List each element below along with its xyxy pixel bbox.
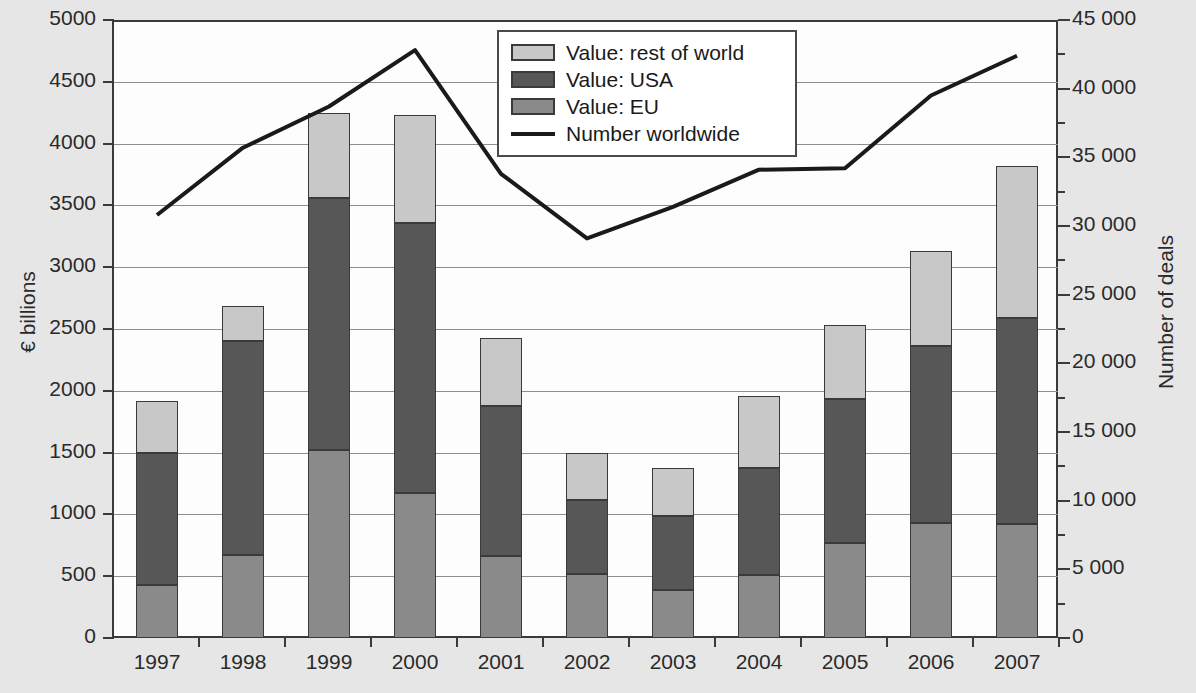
y-axis-tick-mark-right — [1058, 225, 1070, 227]
bar-segment-rest-of-world — [910, 251, 952, 346]
y-axis-title-left: € billions — [16, 192, 40, 432]
y-axis-tick-mark-left — [103, 204, 114, 206]
bar-segment-eu — [738, 575, 780, 638]
y-axis-tick-mark-left — [103, 513, 114, 515]
y-axis-tick-mark-left — [103, 390, 114, 392]
bar-segment-usa — [308, 198, 350, 450]
y-axis-tick-label-left: 3500 — [49, 191, 96, 215]
bar-segment-eu — [652, 590, 694, 638]
y-axis-tick-mark-right — [1058, 53, 1065, 55]
legend-label-usa: Value: USA — [566, 68, 673, 92]
bar-segment-usa — [910, 346, 952, 523]
legend-item-rest-of-world: Value: rest of world — [511, 39, 785, 66]
bar-segment-usa — [394, 223, 436, 493]
y-axis-tick-label-left: 4000 — [49, 130, 96, 154]
x-axis-tick-label: 1997 — [112, 650, 202, 674]
y-axis-tick-label-right: 10 000 — [1072, 487, 1136, 511]
bar-segment-eu — [910, 523, 952, 638]
y-axis-tick-mark-right — [1058, 568, 1070, 570]
y-axis-tick-mark-right — [1058, 156, 1070, 158]
x-axis-tick-label: 2005 — [800, 650, 890, 674]
legend-item-eu: Value: EU — [511, 93, 785, 120]
x-axis-tick-mark — [800, 638, 802, 647]
y-axis-tick-label-left: 500 — [61, 562, 96, 586]
legend-swatch-rest-of-world — [511, 44, 555, 61]
bar-segment-eu — [480, 556, 522, 638]
x-axis-tick-mark — [628, 638, 630, 647]
y-axis-tick-mark-left — [103, 81, 114, 83]
legend-swatch-usa — [511, 71, 555, 88]
legend: Value: rest of world Value: USA Value: E… — [497, 30, 797, 157]
bar-segment-eu — [136, 585, 178, 638]
bar-segment-eu — [394, 493, 436, 638]
y-axis-tick-label-right: 40 000 — [1072, 75, 1136, 99]
x-axis-tick-mark — [370, 638, 372, 647]
x-axis-tick-label: 2006 — [886, 650, 976, 674]
y-axis-tick-label-right: 5 000 — [1072, 555, 1125, 579]
y-axis-tick-label-left: 1000 — [49, 500, 96, 524]
x-axis-tick-mark — [456, 638, 458, 647]
bar-segment-rest-of-world — [996, 166, 1038, 318]
x-axis-tick-mark — [542, 638, 544, 647]
y-axis-tick-mark-right — [1058, 534, 1065, 536]
legend-item-usa: Value: USA — [511, 66, 785, 93]
y-axis-tick-mark-left — [103, 575, 114, 577]
bar-segment-eu — [824, 543, 866, 638]
y-axis-tick-mark-left — [103, 266, 114, 268]
bar-segment-usa — [738, 468, 780, 575]
bar-segment-rest-of-world — [824, 325, 866, 400]
y-axis-tick-label-right: 0 — [1072, 624, 1084, 648]
y-axis-tick-label-left: 4500 — [49, 68, 96, 92]
y-axis-tick-mark-left — [103, 637, 114, 639]
x-axis-tick-label: 2003 — [628, 650, 718, 674]
legend-line-marker — [511, 125, 555, 142]
y-axis-tick-mark-left — [103, 19, 114, 21]
bar-segment-usa — [222, 341, 264, 554]
y-axis-tick-mark-right — [1058, 294, 1070, 296]
x-axis-tick-mark — [198, 638, 200, 647]
x-axis-tick-mark — [972, 638, 974, 647]
y-axis-tick-mark-right — [1058, 88, 1070, 90]
x-axis-tick-label: 2000 — [370, 650, 460, 674]
y-axis-tick-label-left: 1500 — [49, 439, 96, 463]
chart-root: 0500100015002000250030003500400045005000… — [0, 0, 1196, 693]
x-axis-tick-mark — [886, 638, 888, 647]
bar-segment-rest-of-world — [652, 468, 694, 516]
gridline — [112, 205, 1058, 206]
bar-segment-eu — [566, 574, 608, 638]
x-axis-tick-mark — [284, 638, 286, 647]
x-axis-tick-label: 1998 — [198, 650, 288, 674]
bar-segment-eu — [308, 450, 350, 638]
y-axis-tick-mark-right — [1058, 328, 1065, 330]
y-axis-tick-mark-right — [1058, 122, 1065, 124]
bar-segment-usa — [480, 406, 522, 556]
y-axis-tick-label-left: 0 — [84, 624, 96, 648]
y-axis-tick-mark-left — [103, 328, 114, 330]
y-axis-tick-mark-right — [1058, 603, 1065, 605]
y-axis-tick-label-left: 2000 — [49, 377, 96, 401]
bar-segment-usa — [996, 318, 1038, 524]
x-axis-tick-label: 2002 — [542, 650, 632, 674]
bar-segment-usa — [136, 453, 178, 585]
bar-segment-rest-of-world — [394, 115, 436, 223]
y-axis-tick-label-right: 30 000 — [1072, 212, 1136, 236]
y-axis-tick-label-left: 2500 — [49, 315, 96, 339]
x-axis-tick-mark — [714, 638, 716, 647]
bar-segment-rest-of-world — [480, 338, 522, 405]
y-axis-tick-label-right: 15 000 — [1072, 418, 1136, 442]
y-axis-tick-label-right: 35 000 — [1072, 143, 1136, 167]
bar-segment-rest-of-world — [566, 453, 608, 500]
y-axis-tick-mark-right — [1058, 500, 1070, 502]
y-axis-tick-mark-right — [1058, 362, 1070, 364]
y-axis-tick-mark-right — [1058, 397, 1065, 399]
bar-segment-eu — [996, 524, 1038, 638]
bar-segment-rest-of-world — [738, 396, 780, 468]
y-axis-tick-mark-right — [1058, 191, 1065, 193]
y-axis-tick-label-right: 25 000 — [1072, 281, 1136, 305]
bar-segment-rest-of-world — [222, 306, 264, 342]
x-axis-tick-label: 2007 — [972, 650, 1062, 674]
y-axis-tick-mark-right — [1058, 465, 1065, 467]
x-axis-tick-label: 2001 — [456, 650, 546, 674]
x-axis-tick-label: 2004 — [714, 650, 804, 674]
y-axis-tick-label-right: 45 000 — [1072, 6, 1136, 30]
